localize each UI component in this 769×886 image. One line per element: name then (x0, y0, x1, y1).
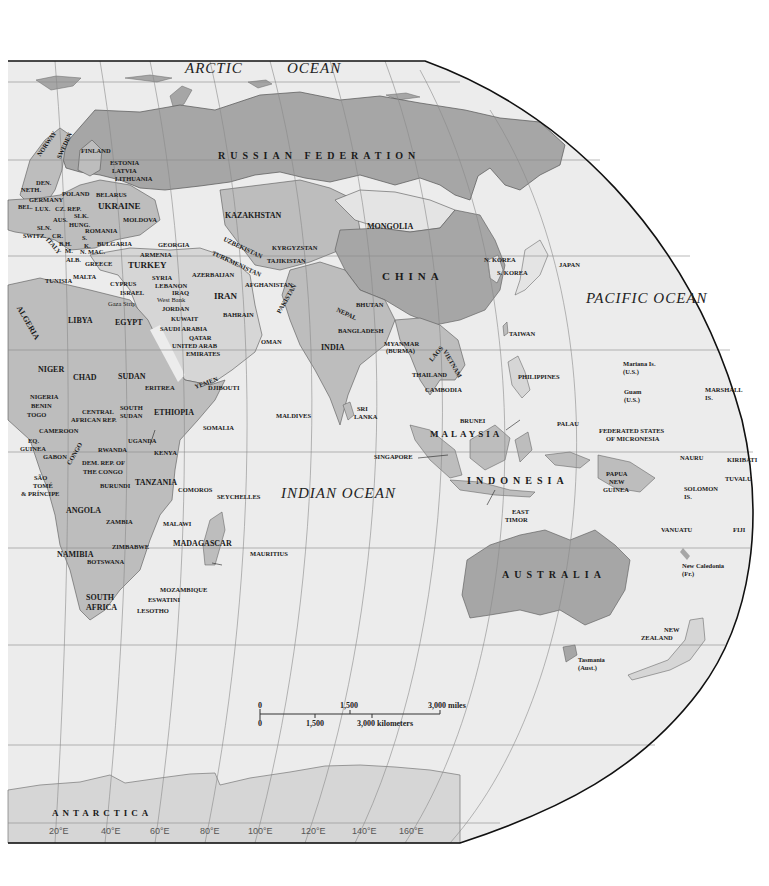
guam-label-2: (U.S.) (624, 396, 640, 403)
longitude-tick-120e: 120°E (301, 826, 326, 836)
comoros-label: COMOROS (178, 486, 212, 493)
longitude-tick-140e: 140°E (352, 826, 377, 836)
finland-label: FINLAND (81, 147, 111, 154)
eswatini-label: ESWATINI (148, 596, 180, 603)
longitude-tick-40e: 40°E (101, 826, 121, 836)
tasmania-label-1: Tasmania (578, 656, 605, 663)
east-timor-label-2: TIMOR (505, 516, 528, 523)
turkey-label: TURKEY (128, 260, 167, 270)
kenya-label: KENYA (154, 449, 177, 456)
lebanon-label: LEBANON (155, 282, 187, 289)
qatar-label: QATAR (189, 334, 212, 341)
indian-ocean-label: INDIAN OCEAN (281, 489, 396, 497)
philippines-label: PHILIPPINES (518, 373, 560, 380)
vanuatu-label: VANUATU (661, 526, 692, 533)
marshall-label-2: IS. (705, 394, 713, 401)
png-label-3: GUINEA (603, 486, 629, 493)
bangladesh-label: BANGLADESH (338, 327, 384, 334)
sudan-label: SUDAN (118, 372, 146, 382)
nigeria-label: NIGERIA (30, 393, 59, 400)
malawi-label: MALAWI (163, 520, 191, 527)
fiji-label: FIJI (733, 526, 745, 533)
iraq-label: IRAQ (172, 289, 189, 296)
alb-label: ALB. (66, 256, 81, 263)
eritrea-label: ERITREA (145, 384, 175, 391)
somalia-label: SOMALIA (203, 424, 234, 431)
brunei-label: BRUNEI (460, 417, 485, 424)
lithuania-label: LITHUANIA (115, 175, 153, 182)
zambia-label: ZAMBIA (106, 518, 133, 525)
aus-label: AUS. (53, 216, 68, 223)
togo-label: TOGO (27, 411, 46, 418)
n-korea-label: N. KOREA (484, 256, 516, 263)
georgia-label: GEORGIA (158, 241, 189, 248)
tuvalu-label: TUVALU (725, 475, 752, 482)
s-korea-label: S. KOREA (497, 269, 528, 276)
mongolia-label: MONGOLIA (367, 222, 413, 232)
ethiopia-label: ETHIOPIA (154, 408, 194, 418)
saudi-arabia-label: SAUDI ARABIA (160, 325, 207, 332)
gabon-label: GABON (43, 453, 67, 460)
marshall-label-1: MARSHALL (705, 386, 743, 393)
greece-label: GREECE (85, 260, 112, 267)
neth-label: NETH. (21, 186, 41, 193)
taiwan-label: TAIWAN (509, 330, 535, 337)
den-label: DEN. (36, 179, 51, 186)
benin-label: BENIN (31, 402, 52, 409)
uganda-label: UGANDA (128, 437, 157, 444)
drc-label-1: DEM. REP. OF (82, 459, 125, 466)
scale-miles-0: 0 (258, 701, 262, 710)
afghanistan-label: AFGHANISTAN (245, 281, 293, 288)
switz-label: SWITZ. (23, 232, 46, 239)
longitude-tick-80e: 80°E (200, 826, 220, 836)
longitude-tick-60e: 60°E (150, 826, 170, 836)
car-label-1: CENTRAL (82, 408, 114, 415)
solomon-label-2: IS. (684, 493, 692, 500)
uae-label-1: UNITED ARAB (172, 342, 217, 349)
south-sudan-label-1: SOUTH (120, 404, 143, 411)
png-label-2: NEW (609, 478, 625, 485)
lesotho-label: LESOTHO (137, 607, 169, 614)
rwanda-label: RWANDA (98, 446, 127, 453)
iran-label: IRAN (214, 291, 237, 301)
new-zealand-label-1: NEW (664, 626, 680, 633)
tunisia-label: TUNISIA (45, 277, 72, 284)
tanzania-label: TANZANIA (135, 478, 177, 488)
tajikistan-label: TAJIKISTAN (267, 257, 306, 264)
armenia-label: ARMENIA (140, 251, 172, 258)
bahrain-label: BAHRAIN (223, 311, 254, 318)
slk-label: SLK. (74, 212, 89, 219)
japan-label: JAPAN (559, 261, 580, 268)
east-timor-label-1: EAST (512, 508, 529, 515)
singapore-label: SINGAPORE (374, 453, 413, 460)
oman-label: OMAN (261, 338, 282, 345)
russia-label: RUSSIAN FEDERATION (218, 152, 420, 160)
scale-km-mid: 1,500 (306, 719, 324, 728)
malaysia-label: MALAYSIA (430, 430, 502, 438)
thailand-label: THAILAND (412, 371, 447, 378)
jordan-label: JORDAN (162, 305, 189, 312)
longitude-tick-160e: 160°E (399, 826, 424, 836)
tasmania-label-2: (Aust.) (578, 664, 597, 671)
mariana-label-1: Mariana Is. (623, 360, 656, 367)
maldives-label: MALDIVES (276, 412, 311, 419)
sri-lanka-label-1: SRI (357, 405, 368, 412)
chad-label: CHAD (73, 373, 97, 383)
mozambique-label: MOZAMBIQUE (160, 586, 207, 593)
malta-label: MALTA (73, 273, 96, 280)
ukraine-label: UKRAINE (98, 201, 141, 211)
burundi-label: BURUNDI (100, 482, 130, 489)
latvia-label: LATVIA (112, 167, 137, 174)
china-label: CHINA (382, 272, 444, 280)
bulgaria-label: BULGARIA (97, 240, 132, 247)
indonesia-label: INDONESIA (467, 477, 569, 485)
solomon-label-1: SOLOMON (684, 485, 718, 492)
belarus-label: BELARUS (96, 191, 127, 198)
angola-label: ANGOLA (66, 506, 101, 516)
uae-label-2: EMIRATES (186, 350, 220, 357)
micronesia-label-2: OF MICRONESIA (606, 435, 659, 442)
libya-label: LIBYA (68, 316, 93, 326)
estonia-label: ESTONIA (110, 159, 139, 166)
west-bank-label: West Bank (157, 296, 185, 303)
eq-guinea-label-1: EQ. (28, 437, 39, 444)
